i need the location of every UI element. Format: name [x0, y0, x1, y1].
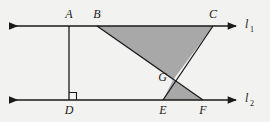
- point-label-g: G: [158, 70, 167, 84]
- point-label-b: B: [93, 7, 101, 21]
- point-label-a: A: [64, 7, 73, 21]
- right-angle-marker-icon: [69, 93, 77, 101]
- line-labels: l 1 l 2: [245, 17, 254, 108]
- line-label-l2-subscript: 2: [250, 99, 254, 108]
- line-label-l1-subscript: 1: [250, 25, 254, 34]
- line-label-l1: l: [245, 17, 249, 31]
- geometry-figure: A B C D E F G l 1 l 2: [0, 0, 270, 122]
- point-label-c: C: [209, 7, 218, 21]
- line-label-l2: l: [245, 91, 249, 105]
- shaded-regions: [97, 26, 213, 100]
- point-label-d: D: [64, 103, 74, 117]
- figure-canvas: A B C D E F G l 1 l 2: [0, 0, 270, 122]
- shaded-triangle-bcg: [97, 26, 213, 80]
- point-label-e: E: [158, 103, 167, 117]
- point-label-f: F: [198, 103, 207, 117]
